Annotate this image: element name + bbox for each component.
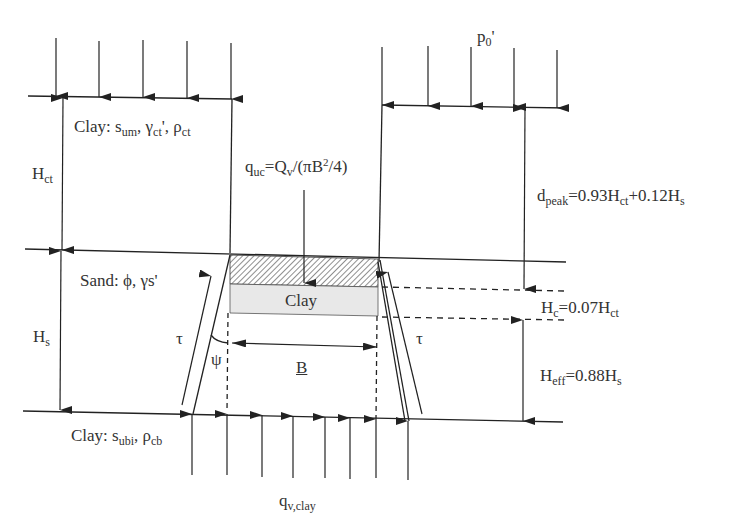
top-left-ground-line	[28, 96, 232, 99]
p0-label: p0'	[477, 28, 495, 48]
left-failure-plane	[193, 255, 230, 414]
hc-top-dashed	[382, 287, 565, 291]
bottom-clay-label: Clay: subi, ρcb	[71, 427, 162, 447]
hct-dimension	[62, 98, 63, 250]
dpeak-formula: dpeak=0.93Hct+0.12Hs	[537, 187, 685, 207]
b-dimension	[232, 343, 377, 347]
hs-dimension	[60, 251, 61, 410]
top-clay-label: Clay: sum, γct', ρct	[74, 118, 190, 138]
clay-block-label: Clay	[285, 292, 317, 309]
tau-left-label: τ	[176, 330, 183, 347]
hc-bottom-dashed	[382, 317, 565, 320]
bottom-reaction-arrows	[192, 414, 408, 480]
tau-right-label: τ	[416, 330, 423, 347]
qv-clay-label: qv,clay	[279, 492, 316, 512]
hs-label: Hs	[33, 328, 50, 348]
hc-formula: Hc=0.07Hct	[541, 299, 619, 319]
dpeak-dimension	[524, 108, 525, 289]
right-dashed-vertical	[376, 316, 377, 419]
right-surcharge-arrows	[382, 46, 557, 108]
top-right-ground-line	[382, 105, 568, 108]
sand-label: Sand: ϕ, γs'	[80, 272, 158, 289]
left-wall-line	[230, 99, 232, 253]
left-surcharge-arrows	[56, 38, 231, 99]
diagram-canvas	[0, 0, 736, 532]
left-dashed-vertical	[227, 313, 228, 412]
psi-arc	[211, 335, 228, 343]
hct-label: Hct	[32, 165, 53, 185]
right-wall-line	[379, 105, 382, 262]
psi-label: ψ	[211, 351, 222, 368]
heff-formula: Heff=0.88Hs	[540, 367, 622, 387]
quc-formula: quc=Qv/(πB2/4)	[245, 157, 347, 178]
tau-arrows-left	[182, 276, 211, 405]
b-label: B	[296, 359, 307, 376]
